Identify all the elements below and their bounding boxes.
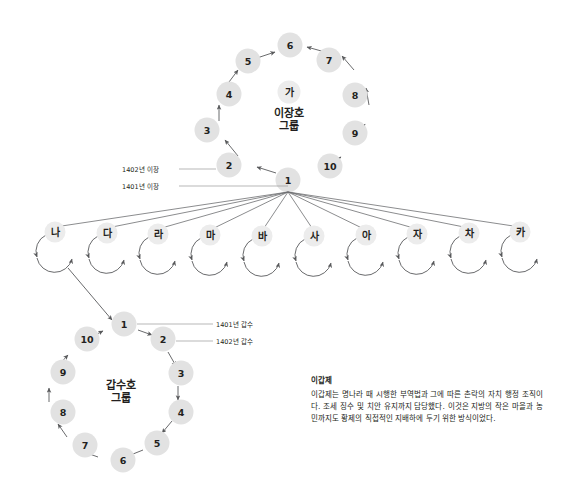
bottom-node-1-label: 1 [121, 319, 128, 330]
bottom-group-center: 갑수호 그룹 [106, 378, 136, 405]
middle-node-sa[interactable]: 사 [295, 226, 331, 277]
top-node-10-label: 10 [323, 161, 337, 172]
top-group-badge-label: 가 [285, 86, 295, 98]
middle-node-da-label: 다 [103, 227, 113, 239]
top-node-4-label: 4 [226, 89, 233, 100]
top-group-title-line2: 그룹 [279, 120, 299, 133]
bottom-node-2-label: 2 [160, 334, 167, 345]
top-node-8-label: 8 [352, 90, 359, 101]
annotation-top-lower: 1401년 이장 [122, 181, 159, 191]
bottom-node-9-label: 9 [60, 367, 67, 378]
annotation-bottom-upper: 1401년 갑수 [216, 319, 253, 329]
middle-node-ka[interactable]: 카 [501, 222, 537, 273]
top-node-9[interactable]: 9 [343, 121, 368, 146]
top-node-1-label: 1 [285, 175, 292, 186]
top-node-6[interactable]: 6 [278, 33, 303, 58]
bottom-node-10-label: 10 [80, 334, 94, 345]
top-node-8[interactable]: 8 [343, 83, 368, 108]
top-node-4[interactable]: 4 [217, 82, 242, 107]
top-node-7-label: 7 [326, 55, 333, 66]
top-node-9-label: 9 [352, 128, 359, 139]
top-node-3[interactable]: 3 [195, 118, 220, 143]
middle-node-ba-label: 바 [258, 230, 268, 242]
bottom-node-10[interactable]: 10 [75, 327, 100, 352]
note-block: 이갑제 이갑제는 명나라 때 시행한 부역법과 그에 따른 촌락의 자치 행정 … [311, 376, 543, 425]
bottom-node-6[interactable]: 6 [111, 448, 136, 473]
top-node-1[interactable]: 1 [276, 168, 301, 193]
bottom-node-8[interactable]: 8 [51, 400, 76, 425]
bottom-node-7-label: 7 [82, 440, 89, 451]
bottom-node-4[interactable]: 4 [169, 400, 194, 425]
link-na-to-bottom-group [68, 268, 112, 320]
top-node-2[interactable]: 2 [217, 153, 242, 178]
middle-node-ra[interactable]: 라 [139, 224, 175, 275]
middle-node-ja-label: 자 [413, 228, 423, 240]
middle-node-ka-label: 카 [516, 226, 526, 238]
bottom-node-8-label: 8 [60, 407, 67, 418]
top-group: 1 2 3 4 5 [179, 33, 369, 193]
bottom-group: 1 2 3 4 5 [49, 312, 213, 473]
top-node-3-label: 3 [204, 125, 211, 136]
middle-node-sa-label: 사 [310, 230, 320, 242]
bottom-group-title-line1: 갑수호 [106, 378, 136, 392]
middle-node-na-label: 나 [51, 226, 61, 238]
top-node-6-label: 6 [287, 40, 294, 51]
middle-node-na[interactable]: 나 [36, 222, 72, 273]
middle-node-ja[interactable]: 자 [398, 224, 434, 275]
bottom-node-9[interactable]: 9 [51, 360, 76, 385]
top-group-title-line1: 이장호 [274, 106, 304, 120]
bottom-node-6-label: 6 [120, 455, 127, 466]
middle-node-cha-label: 차 [465, 227, 475, 239]
bottom-node-5[interactable]: 5 [145, 431, 170, 456]
top-group-center: 가 이장호 그룹 [274, 81, 304, 134]
note-title: 이갑제 [311, 376, 543, 386]
middle-node-cha[interactable]: 차 [450, 223, 486, 274]
middle-node-ma[interactable]: 마 [191, 225, 227, 276]
top-node-5-label: 5 [245, 56, 252, 67]
bottom-node-5-label: 5 [154, 438, 161, 449]
middle-node-ma-label: 마 [206, 229, 216, 241]
annotation-top-upper: 1402년 이장 [122, 164, 159, 174]
bottom-node-4-label: 4 [178, 407, 185, 418]
middle-node-a[interactable]: 아 [347, 225, 383, 276]
bottom-node-2[interactable]: 2 [151, 327, 176, 352]
bottom-node-7[interactable]: 7 [73, 433, 98, 458]
bottom-node-3[interactable]: 3 [169, 361, 194, 386]
top-node-10[interactable]: 10 [318, 154, 343, 179]
bottom-node-3-label: 3 [178, 368, 185, 379]
top-node-2-label: 2 [226, 160, 233, 171]
annotation-bottom-lower: 1402년 갑수 [216, 336, 253, 346]
bottom-node-1[interactable]: 1 [112, 312, 137, 337]
middle-node-da[interactable]: 다 [88, 223, 124, 274]
top-node-5[interactable]: 5 [236, 49, 261, 74]
diagram-canvas: 1 2 3 4 5 [0, 0, 575, 491]
middle-row: 나 다 라 마 [36, 222, 537, 277]
middle-node-a-label: 아 [362, 229, 372, 241]
top-node-7[interactable]: 7 [317, 48, 342, 73]
bottom-group-title-line2: 그룹 [111, 392, 131, 405]
fan-connectors [55, 192, 520, 231]
note-body: 이갑제는 명나라 때 시행한 부역법과 그에 따른 촌락의 자치 행정 조직이다… [311, 389, 543, 425]
middle-node-ra-label: 라 [154, 228, 164, 240]
middle-node-ba[interactable]: 바 [243, 226, 279, 277]
